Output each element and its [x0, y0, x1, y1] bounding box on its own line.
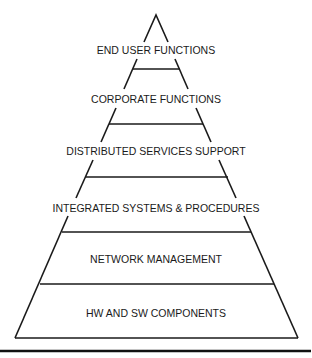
pyramid-apex [144, 15, 168, 42]
left-edge-segment [101, 108, 116, 142]
right-edge-segment [244, 216, 298, 338]
layer-label-distributed-services-support: DISTRIBUTED SERVICES SUPPORT [0, 145, 312, 157]
right-edge-segment [219, 160, 236, 198]
right-edge-segment [175, 59, 188, 89]
left-edge-segment [15, 216, 68, 338]
layer-label-integrated-systems-procedures: INTEGRATED SYSTEMS & PROCEDURES [0, 202, 312, 214]
right-edge-segment [196, 108, 211, 142]
layer-label-hw-and-sw-components: HW AND SW COMPONENTS [0, 307, 312, 319]
layer-label-end-user-functions: END USER FUNCTIONS [0, 44, 312, 56]
left-edge-segment [124, 59, 137, 89]
layer-label-network-management: NETWORK MANAGEMENT [0, 253, 312, 265]
layer-label-corporate-functions: CORPORATE FUNCTIONS [0, 93, 312, 105]
left-edge-segment [76, 160, 93, 198]
